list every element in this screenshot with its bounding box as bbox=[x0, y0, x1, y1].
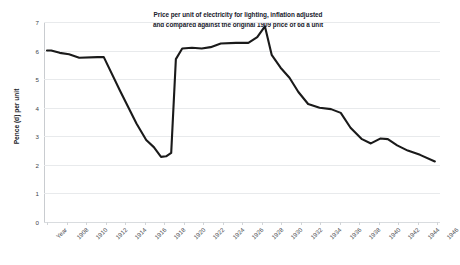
y-axis-tick-6: 6 bbox=[36, 47, 39, 54]
x-axis-tick-mark-1944 bbox=[418, 222, 419, 225]
x-axis-tick-mark-1924 bbox=[223, 222, 224, 225]
x-axis-tick-mark-1942 bbox=[398, 222, 399, 225]
y-axis-tick-3: 3 bbox=[36, 133, 39, 140]
x-axis-tick-1940: 1940 bbox=[386, 226, 401, 241]
x-axis-tick-1910: 1910 bbox=[94, 226, 109, 241]
x-axis-tick-1936: 1936 bbox=[347, 226, 362, 241]
y-axis-tick-0: 0 bbox=[36, 219, 39, 226]
x-axis-tick-1914: 1914 bbox=[133, 226, 148, 241]
x-axis-tick-mark-1914 bbox=[125, 222, 126, 225]
y-axis-tick-4: 4 bbox=[36, 104, 39, 111]
x-axis-tick-mark-1912 bbox=[106, 222, 107, 225]
x-axis-tick-1932: 1932 bbox=[308, 226, 323, 241]
chart-title-line-1: Price per unit of electricity for lighti… bbox=[118, 10, 358, 20]
x-axis-tick-mark-1938 bbox=[359, 222, 360, 225]
x-axis-tick-1922: 1922 bbox=[211, 226, 226, 241]
x-axis-tick-mark-1920 bbox=[184, 222, 185, 225]
y-axis-tick-7: 7 bbox=[36, 19, 39, 26]
x-axis-tick-mark-1922 bbox=[203, 222, 204, 225]
x-axis-tick-mark-1918 bbox=[164, 222, 165, 225]
x-axis-tick-1920: 1920 bbox=[191, 226, 206, 241]
x-axis-tick-mark-1932 bbox=[301, 222, 302, 225]
x-axis-tick-mark-1910 bbox=[86, 222, 87, 225]
x-axis-tick-1938: 1938 bbox=[367, 226, 382, 241]
x-axis-tick-1916: 1916 bbox=[152, 226, 167, 241]
x-axis-tick-mark-1930 bbox=[281, 222, 282, 225]
x-axis-tick-mark-1946 bbox=[437, 222, 438, 225]
x-axis-tick-1942: 1942 bbox=[406, 226, 421, 241]
x-axis-tick-1930: 1930 bbox=[289, 226, 304, 241]
y-axis-tick-5: 5 bbox=[36, 76, 39, 83]
x-axis-tick-mark-1916 bbox=[145, 222, 146, 225]
x-axis-tick-mark-1940 bbox=[379, 222, 380, 225]
series-line-electricity-price bbox=[44, 22, 440, 222]
x-axis-tick-mark-1926 bbox=[242, 222, 243, 225]
x-axis-tick-1924: 1924 bbox=[230, 226, 245, 241]
y-axis-tick-1: 1 bbox=[36, 190, 39, 197]
y-axis-tick-2: 2 bbox=[36, 161, 39, 168]
x-axis-tick-mark-1908 bbox=[67, 222, 68, 225]
x-axis-tick-mark-year bbox=[47, 222, 48, 225]
x-axis-tick-1908: 1908 bbox=[74, 226, 89, 241]
x-axis-tick-mark-1928 bbox=[262, 222, 263, 225]
price-line-path bbox=[47, 26, 435, 161]
x-axis-tick-1928: 1928 bbox=[269, 226, 284, 241]
x-axis-tick-1918: 1918 bbox=[172, 226, 187, 241]
x-axis-tick-1934: 1934 bbox=[328, 226, 343, 241]
x-axis-tick-1912: 1912 bbox=[113, 226, 128, 241]
y-axis-title: Pence (d) per unit bbox=[13, 77, 20, 157]
plot-area: 01234567 Year190819101912191419161918192… bbox=[44, 22, 440, 222]
x-axis-tick-year: Year bbox=[55, 226, 69, 240]
x-axis-tick-mark-1934 bbox=[320, 222, 321, 225]
x-axis-tick-1926: 1926 bbox=[250, 226, 265, 241]
x-axis-tick-mark-1936 bbox=[340, 222, 341, 225]
x-axis-tick-1946: 1946 bbox=[445, 226, 460, 241]
x-axis-tick-1944: 1944 bbox=[425, 226, 440, 241]
